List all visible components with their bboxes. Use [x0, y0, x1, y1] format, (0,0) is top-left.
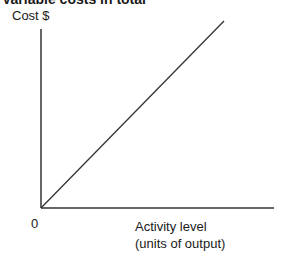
x-axis-label-line1: Activity level: [135, 218, 225, 235]
x-axis-label-line2: (units of output): [135, 235, 225, 252]
x-axis-label: Activity level (units of output): [135, 218, 225, 252]
variable-cost-line: [41, 21, 224, 208]
origin-label: 0: [31, 216, 38, 231]
